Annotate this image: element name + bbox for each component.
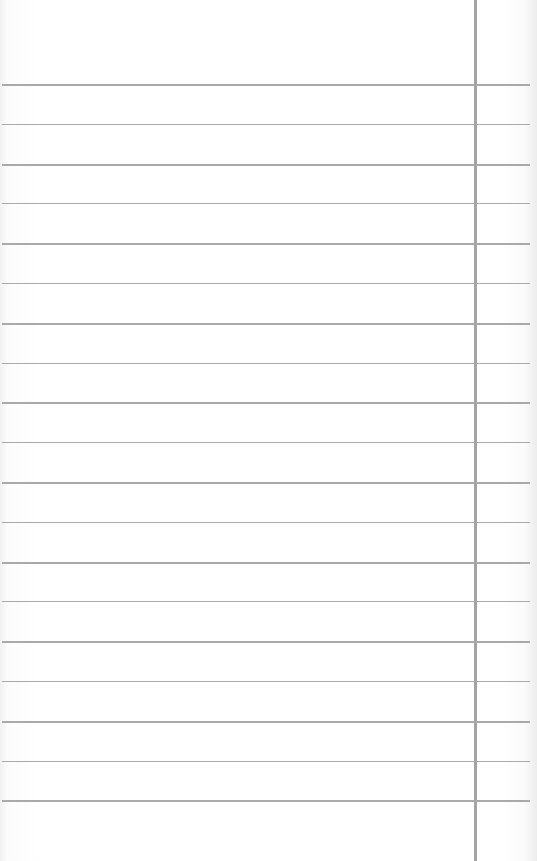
ruled-line [2, 641, 530, 643]
ruled-line [2, 164, 530, 166]
ruled-line [2, 203, 530, 204]
margin-line [474, 0, 477, 861]
ruled-line [2, 482, 530, 484]
ruled-line [2, 124, 530, 125]
ruled-line [2, 402, 530, 404]
ruled-line [2, 601, 530, 602]
ruled-line [2, 800, 530, 802]
ruled-line [2, 442, 530, 443]
ruled-line [2, 562, 530, 564]
ruled-line [2, 84, 530, 86]
lined-paper-sheet [0, 0, 537, 861]
ruled-line [2, 761, 530, 762]
ruled-line [2, 243, 530, 245]
ruled-line [2, 721, 530, 723]
ruled-line [2, 363, 530, 364]
ruled-line [2, 522, 530, 523]
ruled-line [2, 681, 530, 682]
ruled-line [2, 283, 530, 284]
ruled-line [2, 323, 530, 325]
